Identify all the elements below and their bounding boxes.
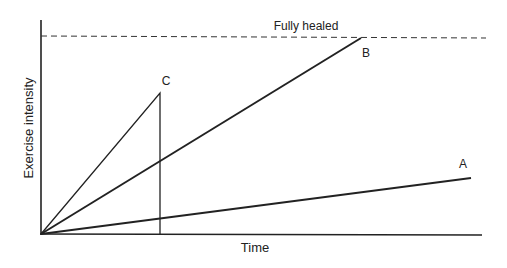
series-b-label: B — [362, 46, 370, 60]
series-a-label: A — [459, 157, 467, 171]
series-c-label: C — [162, 74, 171, 88]
x-axis — [40, 234, 482, 235]
series-a-line — [41, 178, 471, 234]
fully-healed-reference-line — [41, 36, 486, 38]
exercise-intensity-diagram: Fully healed C B A Time Exercise intensi… — [0, 0, 507, 268]
fully-healed-label: Fully healed — [274, 19, 339, 33]
series-b-line — [41, 38, 361, 234]
y-axis-label: Exercise intensity — [21, 77, 36, 179]
series-c-line — [41, 93, 160, 234]
x-axis-label: Time — [241, 240, 269, 255]
